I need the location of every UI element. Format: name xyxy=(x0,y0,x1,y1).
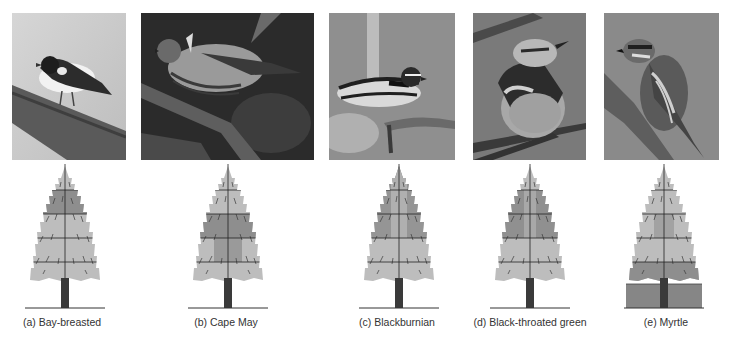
tree-diagram-cape-may xyxy=(188,160,268,316)
tree-diagram-black-throated-green xyxy=(490,160,570,316)
caption-bay-breasted: (a) Bay-breasted xyxy=(23,316,101,328)
caption-cape-may: (b) Cape May xyxy=(194,316,258,328)
tree-diagram-bay-breasted xyxy=(25,160,105,316)
caption-black-throated-green: (d) Black-throated green xyxy=(473,316,586,328)
photo-blackburnian xyxy=(329,13,455,160)
photo-bay-breasted xyxy=(12,13,126,160)
tree-diagram-myrtle xyxy=(624,160,704,316)
caption-myrtle: (e) Myrtle xyxy=(644,316,688,328)
caption-blackburnian: (c) Blackburnian xyxy=(359,316,435,328)
photo-cape-may xyxy=(141,13,314,160)
photo-myrtle xyxy=(604,13,719,160)
photo-black-throated-green xyxy=(473,13,586,160)
tree-diagram-blackburnian xyxy=(359,160,439,316)
